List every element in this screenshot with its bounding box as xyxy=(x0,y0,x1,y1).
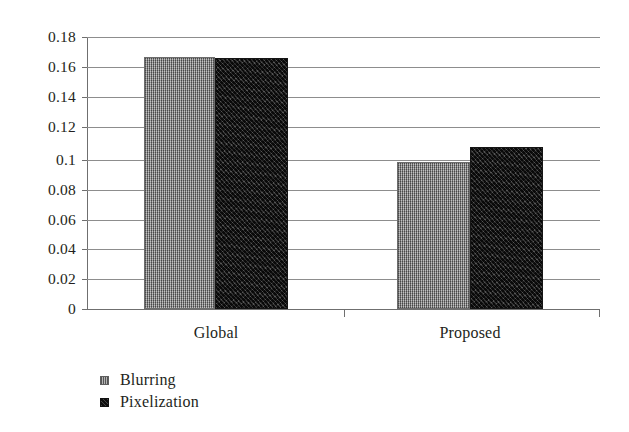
x-axis-label-global: Global xyxy=(151,324,281,342)
legend-label-pixelization: Pixelization xyxy=(120,393,199,411)
bar-global-pixelization xyxy=(215,58,288,309)
bar-proposed-blurring xyxy=(397,162,470,309)
x-axis-tick-end xyxy=(599,310,600,317)
gridline-0-18 xyxy=(87,37,600,38)
y-axis-label-4: 0.1 xyxy=(18,152,76,168)
bar-global-blurring xyxy=(144,57,215,309)
x-axis-tick-separator xyxy=(344,310,345,317)
y-axis-label-3: 0.12 xyxy=(18,119,76,135)
y-axis-label-7: 0.04 xyxy=(18,241,76,257)
legend-item-pixelization: Pixelization xyxy=(100,391,199,413)
x-axis-label-proposed: Proposed xyxy=(405,324,535,342)
y-axis-label-8: 0.02 xyxy=(18,271,76,287)
y-axis-label-2: 0.14 xyxy=(18,89,76,105)
y-axis-label-1: 0.16 xyxy=(18,59,76,75)
bar-chart-figure: 0.18 0.16 0.14 0.12 0.1 0.08 0.06 0.04 0… xyxy=(0,0,629,432)
legend-label-blurring: Blurring xyxy=(120,371,176,389)
y-axis-label-9: 0 xyxy=(18,301,76,317)
y-axis-labels: 0.18 0.16 0.14 0.12 0.1 0.08 0.06 0.04 0… xyxy=(14,0,76,432)
chart-legend: Blurring Pixelization xyxy=(100,369,199,413)
plot-area xyxy=(87,37,600,309)
y-axis-label-0: 0.18 xyxy=(18,29,76,45)
legend-swatch-blurring-icon xyxy=(100,376,109,385)
legend-swatch-pixelization-icon xyxy=(100,398,109,407)
legend-item-blurring: Blurring xyxy=(100,369,199,391)
y-axis-label-6: 0.06 xyxy=(18,212,76,228)
y-axis-label-5: 0.08 xyxy=(18,182,76,198)
bar-proposed-pixelization xyxy=(470,147,543,309)
